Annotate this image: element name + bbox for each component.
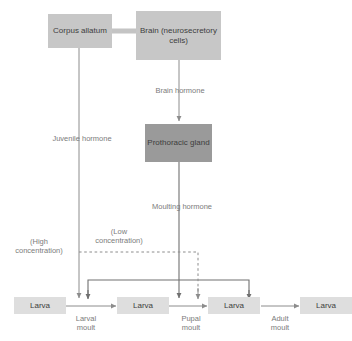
node-larva-3[interactable]: Larva — [208, 297, 260, 314]
connector-corpus-brain — [110, 29, 138, 34]
node-larva-2[interactable]: Larva — [117, 297, 169, 314]
low-concentration-dashed-path — [79, 252, 198, 296]
moulting-hormone-bus — [88, 280, 249, 298]
label-larval-moult: Larval moult — [62, 314, 110, 332]
diagram-canvas: Corpus allatum Brain (neurosecretory cel… — [0, 0, 352, 341]
label-adult-moult: Adult moult — [256, 314, 304, 332]
label-brain-hormone: Brain hormone — [140, 86, 220, 95]
label-moulting-hormone: Moulting hormone — [142, 202, 222, 211]
label-low-concentration: (Low concentration) — [86, 227, 152, 245]
node-larva-4[interactable]: Larva — [300, 297, 352, 314]
node-larva-1[interactable]: Larva — [14, 297, 66, 314]
node-brain[interactable]: Brain (neurosecretory cells) — [136, 11, 221, 60]
node-prothoracic-gland[interactable]: Prothoracic gland — [145, 124, 212, 162]
label-high-concentration: (High concentration) — [6, 237, 72, 255]
node-corpus-allatum[interactable]: Corpus allatum — [48, 14, 112, 48]
label-pupal-moult: Pupal moult — [167, 314, 215, 332]
label-juvenile-hormone: Juvenile hormone — [42, 134, 122, 143]
